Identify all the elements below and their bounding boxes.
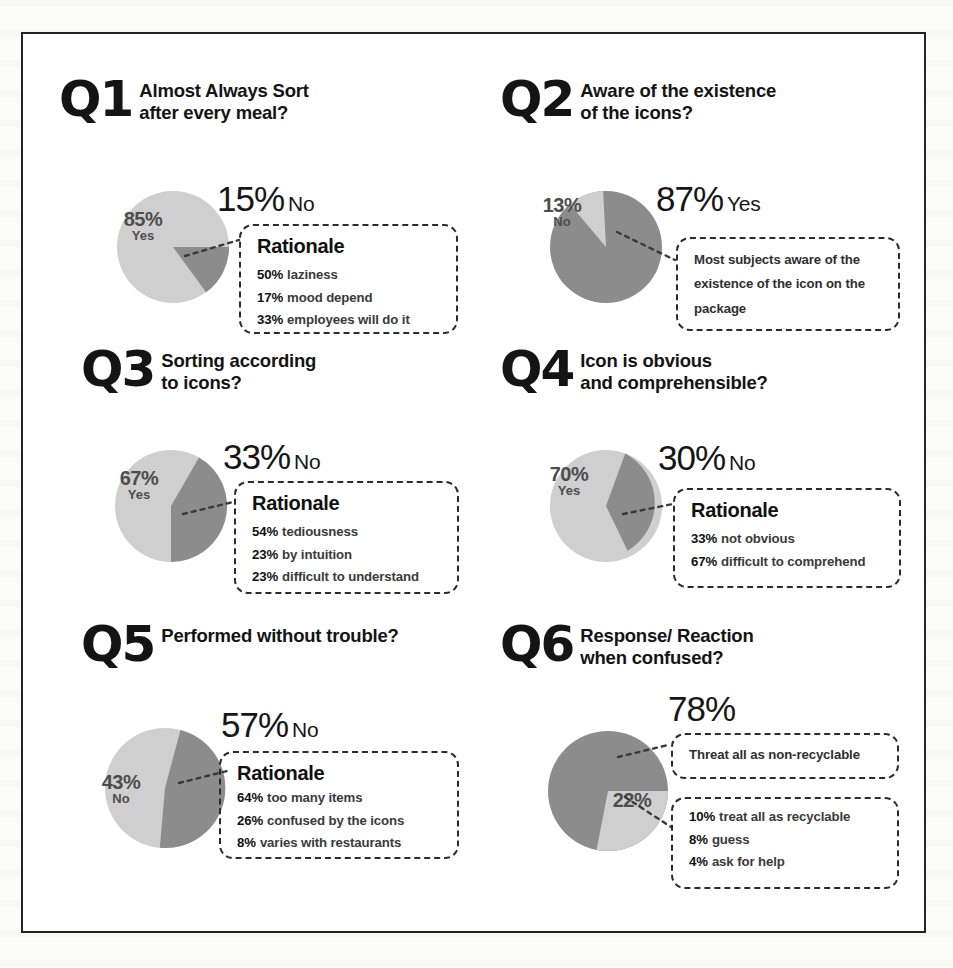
- panel-q6-rationale-0-pct: 10%: [689, 809, 715, 824]
- panel-q6-rationale-1-text: guess: [712, 832, 750, 847]
- panel-q5-heading: Q5 Performed without trouble?: [81, 621, 399, 667]
- list-item: 23%difficult to understand: [252, 566, 445, 589]
- panel-q5-headline-suffix: No: [292, 718, 318, 741]
- panel-q1-rationale-callout: Rationale 50%laziness 17%mood depend 33%…: [239, 224, 458, 334]
- panel-q2-headline: 87%Yes: [656, 181, 760, 216]
- panel-q1-rationale-1-text: mood depend: [287, 290, 372, 305]
- panel-q3-rationale-title: Rationale: [252, 492, 445, 515]
- panel-q6-headline-value: 78%: [668, 689, 735, 728]
- panel-q2-heading: Q2 Aware of the existence of the icons?: [500, 76, 776, 123]
- panel-q1-headline-value: 15%: [217, 179, 284, 218]
- panel-q2-headline-suffix: Yes: [727, 192, 760, 215]
- panel-q6-rationale-2-text: ask for help: [712, 854, 785, 869]
- panel-q4-rationale-list: 33%not obvious 67%difficult to comprehen…: [691, 528, 887, 573]
- panel-q3-rationale-callout: Rationale 54%tediousness 23%by intuition…: [234, 481, 459, 594]
- panel-q3-rationale-1-pct: 23%: [252, 547, 278, 562]
- panel-q2-headline-value: 87%: [656, 179, 723, 218]
- list-item: 10%treat all as recyclable: [689, 806, 885, 829]
- panel-q4-rationale-0-pct: 33%: [691, 531, 717, 546]
- panel-q1-heading: Q1 Almost Always Sort after every meal?: [59, 76, 309, 123]
- panel-q5-headline-value: 57%: [221, 705, 288, 744]
- list-item: 8%varies with restaurants: [237, 832, 445, 855]
- panel-q6-note-text: Threat all as non-recyclable: [689, 747, 885, 763]
- panel-q6-rationale-0-text: treat all as recyclable: [719, 809, 850, 824]
- panel-q5-rationale-1-text: confused by the icons: [267, 813, 404, 828]
- list-item: 26%confused by the icons: [237, 810, 445, 833]
- panel-q1-headline: 15%No: [217, 181, 314, 216]
- panel-q1-title: Almost Always Sort after every meal?: [139, 76, 308, 123]
- list-item: 67%difficult to comprehend: [691, 551, 887, 574]
- panel-q3-number: Q3: [81, 346, 154, 392]
- panel-q5-rationale-1-pct: 26%: [237, 813, 263, 828]
- list-item: 23%by intuition: [252, 544, 445, 567]
- panel-q4-rationale-title: Rationale: [691, 499, 887, 522]
- panel-q4-headline: 30%No: [658, 440, 755, 475]
- panel-q4-rationale-callout: Rationale 33%not obvious 67%difficult to…: [673, 488, 901, 588]
- panel-q3-rationale-2-pct: 23%: [252, 569, 278, 584]
- panel-q5-rationale-0-text: too many items: [267, 790, 362, 805]
- panel-q1: Q1 Almost Always Sort after every meal? …: [23, 34, 473, 334]
- panel-q5-headline: 57%No: [221, 707, 318, 742]
- panel-q2: Q2 Aware of the existence of the icons? …: [473, 34, 924, 334]
- panel-q4-rationale-1-pct: 67%: [691, 554, 717, 569]
- panel-q5-number: Q5: [81, 621, 154, 667]
- list-item: 33%not obvious: [691, 528, 887, 551]
- panel-q3-rationale-2-text: difficult to understand: [282, 569, 419, 584]
- panel-q2-title: Aware of the existence of the icons?: [580, 76, 776, 123]
- panel-q5-rationale-title: Rationale: [237, 762, 445, 785]
- panel-q1-rationale-0-pct: 50%: [257, 267, 283, 282]
- panel-q1-number: Q1: [59, 76, 132, 122]
- panel-q3-rationale-1-text: by intuition: [282, 547, 352, 562]
- panel-q3-heading: Q3 Sorting according to icons?: [81, 346, 316, 393]
- panel-q5: Q5 Performed without trouble? 43% No 57%…: [23, 599, 473, 899]
- panel-q6-breakdown-callout: 10%treat all as recyclable 8%guess 4%ask…: [671, 797, 899, 889]
- panel-q4-headline-value: 30%: [658, 438, 725, 477]
- panel-q4-rationale-1-text: difficult to comprehend: [721, 554, 865, 569]
- panel-q1-rationale-list: 50%laziness 17%mood depend 33%employees …: [257, 264, 444, 332]
- panel-q4-rationale-0-text: not obvious: [721, 531, 795, 546]
- panel-q5-rationale-0-pct: 64%: [237, 790, 263, 805]
- panel-q1-headline-suffix: No: [288, 192, 314, 215]
- panel-q2-note-text: Most subjects aware of the existence of …: [694, 248, 886, 321]
- panel-q6-number: Q6: [500, 621, 573, 667]
- panel-q4: Q4 Icon is obvious and comprehensible? 7…: [473, 326, 924, 616]
- panel-q3-headline: 33%No: [223, 439, 320, 474]
- panel-q6-heading: Q6 Response/ Reaction when confused?: [500, 621, 754, 668]
- panel-q5-rationale-2-text: varies with restaurants: [260, 835, 401, 850]
- list-item: 50%laziness: [257, 264, 444, 287]
- panel-q3: Q3 Sorting according to icons? 67% Yes 3…: [23, 326, 473, 616]
- figure-frame: Q1 Almost Always Sort after every meal? …: [21, 32, 926, 933]
- panel-q3-headline-suffix: No: [294, 450, 320, 473]
- panel-q3-title: Sorting according to icons?: [161, 346, 316, 393]
- list-item: 64%too many items: [237, 787, 445, 810]
- panel-q3-rationale-0-pct: 54%: [252, 524, 278, 539]
- panel-q5-rationale-2-pct: 8%: [237, 835, 256, 850]
- figure-content: Q1 Almost Always Sort after every meal? …: [23, 34, 924, 931]
- panel-q3-rationale-list: 54%tediousness 23%by intuition 23%diffic…: [252, 521, 445, 589]
- panel-q4-title: Icon is obvious and comprehensible?: [580, 346, 767, 393]
- panel-q6-breakdown-list: 10%treat all as recyclable 8%guess 4%ask…: [689, 806, 885, 874]
- panel-q4-headline-suffix: No: [729, 451, 755, 474]
- panel-q2-number: Q2: [500, 76, 573, 122]
- panel-q6-note-callout: Threat all as non-recyclable: [671, 733, 899, 779]
- panel-q6-rationale-2-pct: 4%: [689, 854, 708, 869]
- panel-q6-headline: 78%: [668, 691, 739, 726]
- panel-q3-headline-value: 33%: [223, 437, 290, 476]
- panel-q3-rationale-0-text: tediousness: [282, 524, 358, 539]
- panel-q2-note-callout: Most subjects aware of the existence of …: [676, 237, 900, 331]
- panel-q4-number: Q4: [500, 346, 573, 392]
- panel-q6-title: Response/ Reaction when confused?: [580, 621, 753, 668]
- panel-q5-title: Performed without trouble?: [161, 621, 398, 647]
- panel-q6-rationale-1-pct: 8%: [689, 832, 708, 847]
- list-item: 54%tediousness: [252, 521, 445, 544]
- panel-q1-rationale-1-pct: 17%: [257, 290, 283, 305]
- panel-q6-pie-chart: 22%: [526, 709, 690, 873]
- list-item: 4%ask for help: [689, 851, 885, 874]
- panel-q4-heading: Q4 Icon is obvious and comprehensible?: [500, 346, 768, 393]
- panel-q5-rationale-list: 64%too many items 26%confused by the ico…: [237, 787, 445, 855]
- panel-q5-rationale-callout: Rationale 64%too many items 26%confused …: [219, 751, 459, 859]
- panel-q1-rationale-title: Rationale: [257, 235, 444, 258]
- list-item: 8%guess: [689, 829, 885, 852]
- list-item: 17%mood depend: [257, 287, 444, 310]
- panel-q6: Q6 Response/ Reaction when confused? 22%…: [473, 599, 924, 919]
